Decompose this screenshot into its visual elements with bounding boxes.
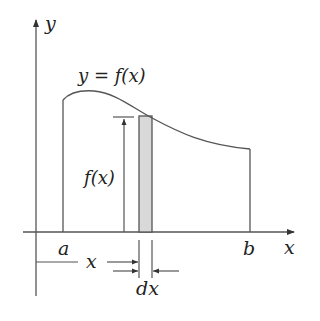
diagram-canvas: y x y = f(x) f(x) a b x dx bbox=[0, 0, 320, 321]
b-label: b bbox=[243, 237, 255, 259]
x-distance-label: x bbox=[86, 250, 97, 272]
dx-label: dx bbox=[136, 277, 159, 299]
a-label: a bbox=[58, 237, 69, 259]
curve-f bbox=[63, 91, 250, 149]
strip-rect bbox=[139, 116, 152, 232]
x-axis-label: x bbox=[284, 236, 295, 258]
y-axis-label: y bbox=[44, 12, 56, 34]
area-diagram: y x y = f(x) f(x) a b x dx bbox=[0, 0, 320, 321]
height-label: f(x) bbox=[82, 167, 115, 188]
curve-label: y = f(x) bbox=[77, 65, 146, 86]
